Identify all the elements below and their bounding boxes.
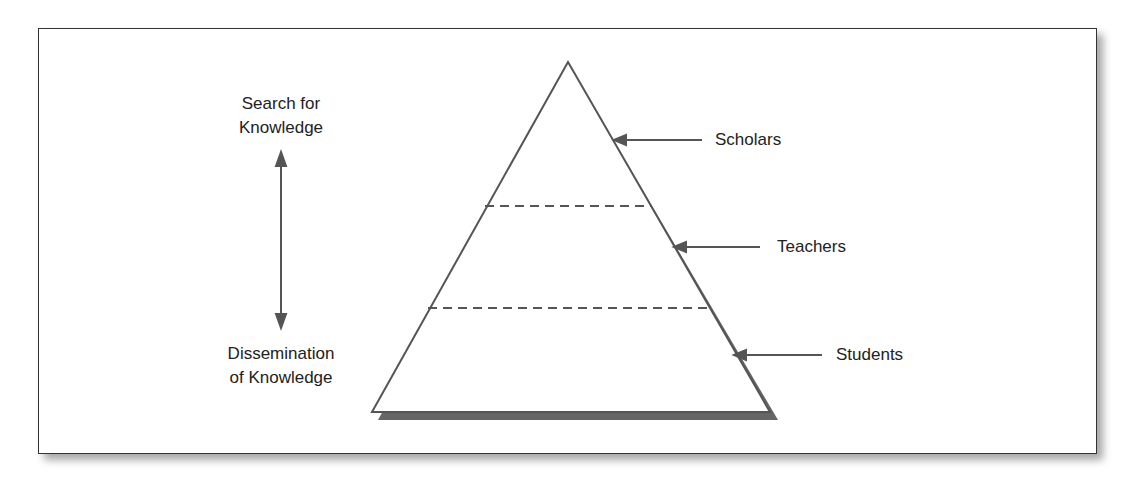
top-label-line: Search for	[200, 92, 362, 116]
tier-label-teachers: Teachers	[777, 237, 846, 257]
top-label-line: Knowledge	[200, 116, 362, 140]
pyramid-graphic	[0, 0, 1139, 477]
tier-label-students: Students	[836, 345, 903, 365]
top-label: Search for Knowledge	[200, 92, 362, 140]
pyramid	[372, 62, 770, 412]
bottom-label: Dissemination of Knowledge	[190, 342, 372, 390]
tier-label-scholars: Scholars	[715, 130, 781, 150]
bottom-label-line: of Knowledge	[190, 366, 372, 390]
bottom-label-line: Dissemination	[190, 342, 372, 366]
double-arrow-icon	[276, 152, 286, 328]
